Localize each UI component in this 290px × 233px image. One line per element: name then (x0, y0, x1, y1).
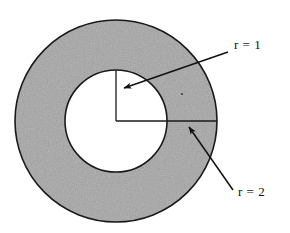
dust-speck (181, 93, 183, 95)
r2-label: r = 2 (238, 184, 265, 199)
r1-label: r = 1 (234, 37, 261, 52)
annulus-figure: r = 1 r = 2 (0, 0, 290, 233)
figure-root: r = 1 r = 2 (0, 0, 290, 233)
